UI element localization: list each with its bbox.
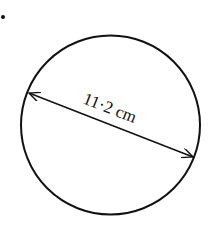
diameter-label: 11·2 cm	[81, 89, 140, 127]
question-marker-dot	[1, 15, 5, 19]
circle-diagram: 11·2 cm	[0, 0, 209, 239]
